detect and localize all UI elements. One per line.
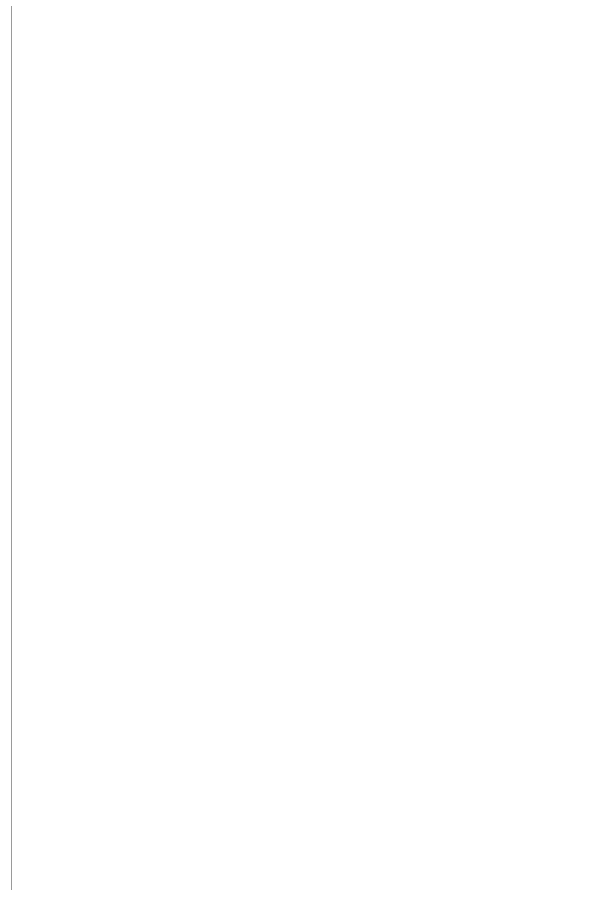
chart-bottom-panel [0, 150, 613, 897]
chart-top-panel [0, 0, 613, 150]
figure-page [0, 0, 613, 897]
